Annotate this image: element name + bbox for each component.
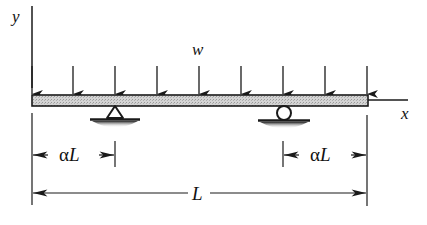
x-axis: x (368, 100, 409, 123)
load-label: w (192, 40, 204, 59)
distributed-load-arrows (32, 66, 367, 94)
right-overhang-label: αL (310, 144, 331, 165)
y-axis: y (10, 6, 32, 88)
roller-support-icon (258, 106, 310, 129)
y-axis-label: y (10, 7, 20, 26)
pin-support-icon (90, 106, 140, 128)
beam (32, 95, 368, 106)
left-overhang-label: αL (59, 144, 80, 165)
beam-diagram: y w x αL (0, 0, 427, 225)
x-axis-label: x (400, 104, 409, 123)
total-length-label: L (191, 183, 203, 204)
